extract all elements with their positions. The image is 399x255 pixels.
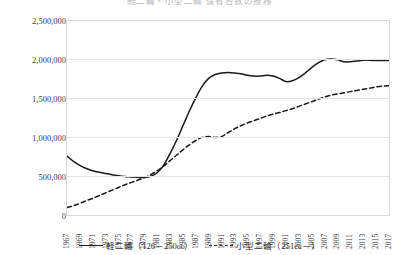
gridline: [67, 98, 389, 99]
chart-title-clipped: 軽二輪・小型二輪 保有台数の推移: [0, 0, 399, 5]
y-tick-label: 0: [4, 211, 66, 221]
legend-swatch-solid-icon: [79, 245, 103, 246]
chart-title: 軽二輪・小型二輪 保有台数の推移: [0, 0, 399, 5]
gridline: [67, 137, 389, 138]
gridline: [67, 176, 389, 177]
series-line-keinirin: [67, 59, 389, 177]
legend-label-kogatanirin: 小型二輪（251cc－）: [236, 239, 319, 251]
legend-item-keinirin: 軽二輪（126－250cc）: [79, 239, 193, 251]
y-tick-label: 2,000,000: [4, 55, 66, 65]
y-tick-label: 1,000,000: [4, 133, 66, 143]
y-tick-label: 2,500,000: [4, 16, 66, 26]
y-tick-label: 1,500,000: [4, 94, 66, 104]
series-lines: [67, 21, 389, 215]
y-tick-label: 500,000: [4, 172, 66, 182]
legend-item-kogatanirin: 小型二輪（251cc－）: [209, 239, 319, 251]
legend-swatch-dashed-icon: [209, 245, 233, 246]
plot-area: [66, 20, 390, 216]
chart-container: 軽二輪・小型二輪 保有台数の推移 2,500,000 2,000,000 1,5…: [0, 0, 399, 255]
legend-label-keinirin: 軽二輪（126－250cc）: [106, 239, 193, 251]
series-line-kogatanirin: [67, 86, 389, 208]
chart-legend: 軽二輪（126－250cc） 小型二輪（251cc－）: [0, 239, 399, 251]
gridline: [67, 59, 389, 60]
